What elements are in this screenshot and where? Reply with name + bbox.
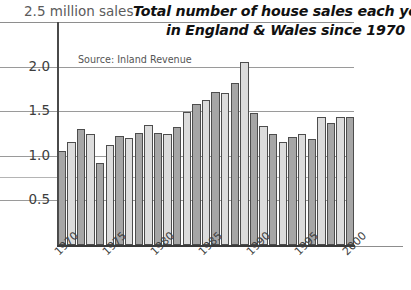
bar-1997 — [317, 117, 325, 245]
chart-title-line-1: Total number of house sales each year — [133, 2, 405, 21]
bar-1995 — [298, 134, 306, 246]
bar-1971 — [67, 142, 75, 245]
bar-1986 — [211, 92, 219, 245]
bar-1989 — [240, 62, 248, 245]
bar-1978 — [135, 133, 143, 245]
bar-2000 — [346, 117, 354, 245]
bar-1976 — [115, 136, 123, 245]
bar-1977 — [125, 138, 133, 245]
bar-series — [57, 22, 355, 245]
bar-1999 — [336, 117, 344, 245]
bar-1984 — [192, 104, 200, 245]
bar-1985 — [202, 100, 210, 245]
bar-1998 — [327, 123, 335, 245]
bar-1970 — [58, 151, 66, 245]
y-tick-label-2-0: 2.0 — [4, 58, 50, 74]
bar-1994 — [288, 137, 296, 245]
x-axis-baseline-extension — [355, 246, 403, 247]
bar-1980 — [154, 133, 162, 245]
bar-1983 — [183, 112, 191, 245]
bar-1993 — [279, 142, 287, 245]
bar-1988 — [231, 83, 239, 245]
y-axis-unit-caption: 2.5 million sales — [24, 3, 133, 19]
chart-container: Total number of house sales each year in… — [0, 0, 411, 290]
bar-1975 — [106, 145, 114, 245]
y-tick-label-1-0: 1.0 — [4, 147, 50, 163]
bar-1973 — [86, 134, 94, 245]
bar-1979 — [144, 125, 152, 245]
bar-1991 — [259, 126, 267, 245]
bar-1972 — [77, 129, 85, 245]
bar-1982 — [173, 127, 181, 245]
y-tick-label-1-5: 1.5 — [4, 102, 50, 118]
bar-1974 — [96, 163, 104, 245]
bar-1992 — [269, 134, 277, 245]
y-tick-label-0-5: 0.5 — [4, 191, 50, 207]
bar-1987 — [221, 93, 229, 245]
x-axis-baseline — [57, 245, 355, 247]
bar-1996 — [308, 139, 316, 245]
bar-1981 — [163, 134, 171, 245]
bar-1990 — [250, 113, 258, 245]
